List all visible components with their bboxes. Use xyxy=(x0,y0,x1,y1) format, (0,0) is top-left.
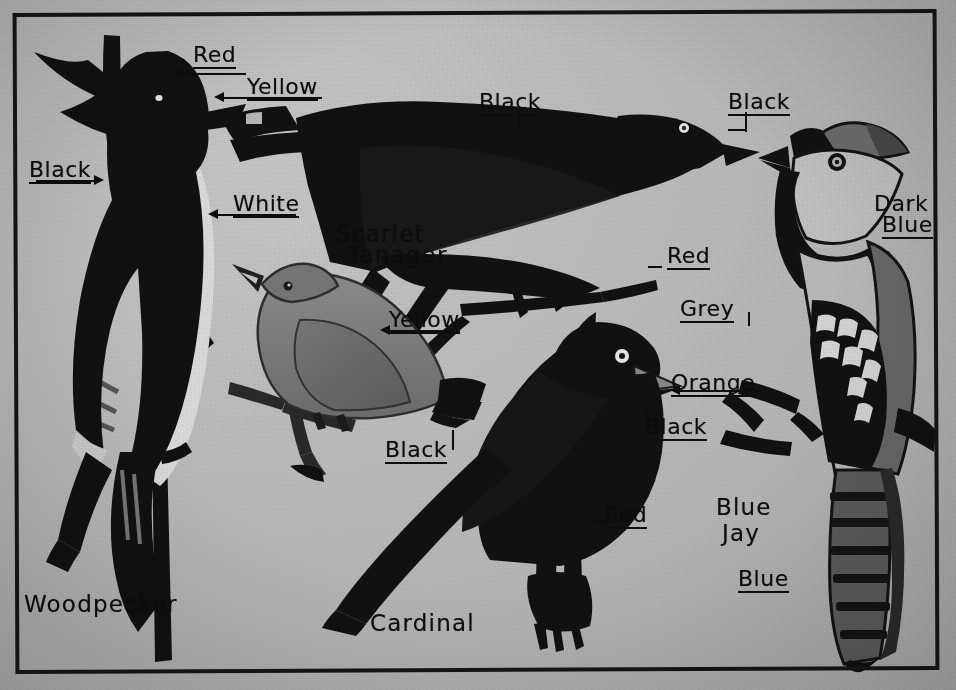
plate-border-frame xyxy=(13,9,940,674)
illustration-plate: Red Yellow Black White Woodpecker Black … xyxy=(0,0,956,690)
